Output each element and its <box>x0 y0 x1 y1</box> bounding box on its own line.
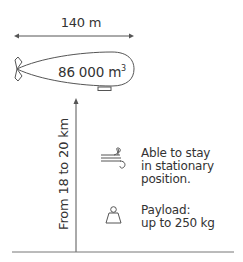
feature-line: up to 250 kg <box>141 217 215 230</box>
feature-stationary: Able to stay in stationary position. <box>141 147 214 186</box>
weight-icon <box>106 207 121 223</box>
length-label: 140 m <box>0 16 162 29</box>
altitude-label: From 18 to 20 km <box>57 118 70 230</box>
feature-line: position. <box>141 173 214 186</box>
volume-label: 86 000 m3 <box>58 62 126 79</box>
altitude-arrow <box>74 98 79 252</box>
volume-value: 86 000 m <box>58 64 121 80</box>
feature-payload: Payload: up to 250 kg <box>141 204 215 230</box>
wind-icon <box>101 148 125 168</box>
volume-exponent: 3 <box>121 64 126 73</box>
length-arrow <box>14 34 134 39</box>
